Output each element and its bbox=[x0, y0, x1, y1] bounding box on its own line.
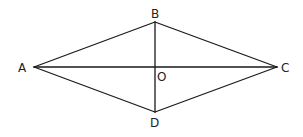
side-bc bbox=[155, 22, 277, 67]
center-label-o: O bbox=[157, 70, 166, 84]
vertex-label-c: C bbox=[281, 61, 289, 75]
rhombus-diagram: A B C D O bbox=[0, 0, 303, 137]
vertex-label-a: A bbox=[18, 61, 27, 75]
vertex-label-b: B bbox=[151, 7, 159, 21]
side-da bbox=[34, 67, 155, 112]
side-cd bbox=[155, 67, 277, 112]
side-ab bbox=[34, 22, 155, 67]
vertex-label-d: D bbox=[150, 116, 159, 130]
